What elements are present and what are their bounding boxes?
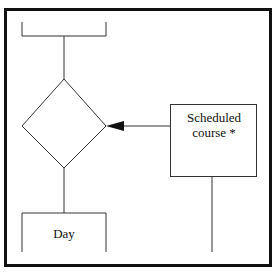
relationship-diamond	[22, 79, 106, 168]
arrowhead-icon	[106, 121, 124, 131]
day-label: Day	[22, 226, 106, 241]
top-entity-bracket	[22, 22, 106, 36]
scheduled-course-label: Scheduled course *	[171, 110, 257, 140]
scheduled-label-line2: course *	[171, 125, 257, 140]
scheduled-label-line1: Scheduled	[171, 110, 257, 125]
